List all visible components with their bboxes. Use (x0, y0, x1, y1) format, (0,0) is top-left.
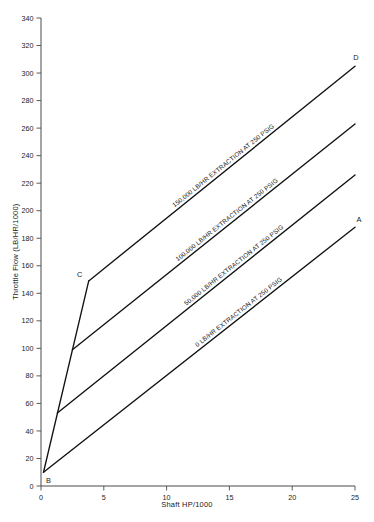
y-tick-label: 100 (22, 344, 34, 353)
x-axis-title: Shaft HP/1000 (0, 500, 374, 509)
y-tick-label: 340 (22, 14, 34, 23)
point-label-c: C (77, 270, 83, 279)
y-tick-label: 0 (30, 482, 34, 491)
series-line-1 (57, 175, 355, 413)
y-tick-label: 220 (22, 179, 34, 188)
chart-canvas: 0204060801001201401601802002202402602803… (0, 0, 374, 522)
series-line-0 (44, 227, 355, 472)
point-label-a: A (357, 215, 362, 224)
y-tick-label: 260 (22, 124, 34, 133)
y-tick-label: 160 (22, 261, 34, 270)
y-tick-label: 80 (26, 371, 34, 380)
y-tick-label: 140 (22, 289, 34, 298)
y-tick-label: 200 (22, 206, 34, 215)
y-axis-title: Throttle Flow (LB/HR/1000) (11, 204, 20, 300)
series-line-4 (44, 281, 89, 472)
y-tick-label: 180 (22, 234, 34, 243)
y-tick-label: 280 (22, 96, 34, 105)
y-tick-label: 40 (26, 427, 34, 436)
y-tick-label: 300 (22, 69, 34, 78)
y-tick-label: 120 (22, 316, 34, 325)
y-tick-label: 60 (26, 399, 34, 408)
y-tick-label: 240 (22, 151, 34, 160)
series-line-3 (89, 66, 355, 281)
chart-figure: 0204060801001201401601802002202402602803… (0, 0, 374, 522)
point-label-b: B (46, 476, 51, 485)
y-tick-label: 320 (22, 41, 34, 50)
point-label-d: D (353, 53, 358, 62)
series-line-2 (72, 124, 355, 350)
y-tick-label: 20 (26, 454, 34, 463)
